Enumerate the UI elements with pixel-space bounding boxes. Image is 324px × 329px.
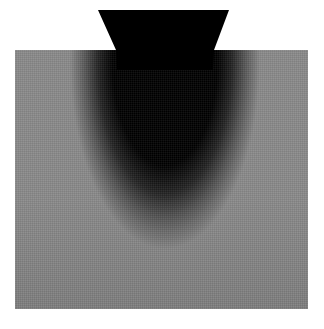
probe-trapezoid <box>0 0 324 329</box>
